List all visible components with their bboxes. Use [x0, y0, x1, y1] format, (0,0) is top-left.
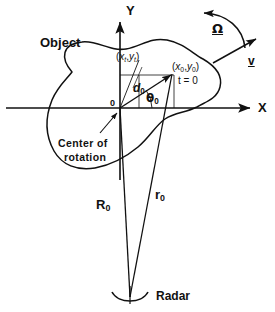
xt-subscript: t — [124, 56, 126, 63]
origin-label: 0 — [110, 99, 115, 108]
paren-close-0: ) — [196, 61, 199, 72]
object-label: Object — [40, 36, 80, 49]
R0-subscript: 0 — [105, 203, 110, 213]
d0-label: d0 — [133, 82, 145, 94]
d0-subscript: 0 — [140, 87, 145, 96]
x0-subscript: 0 — [180, 66, 184, 73]
paren-close: ) — [136, 51, 139, 62]
radar-label: Radar — [156, 290, 190, 302]
yt-subscript: t — [134, 56, 136, 63]
theta0-symbol: θ — [146, 91, 154, 105]
theta0-label: θ0 — [146, 92, 159, 104]
time-zero-label: t = 0 — [178, 76, 198, 86]
r0-subscript: 0 — [160, 193, 165, 203]
point-0-coordinate-label: (x0,y0) — [172, 62, 199, 72]
r0-label: r0 — [155, 188, 165, 201]
y0-subscript: 0 — [192, 66, 196, 73]
x-axis-label: X — [258, 101, 267, 114]
omega-rotation-arc — [204, 13, 245, 48]
point-t-coordinate-label: (xt,yt) — [116, 52, 139, 62]
velocity-label: v — [248, 55, 255, 67]
radar-geometry-figure: Y X 0 Object Ω v (xt,yt) (x0,y0) t = 0 d… — [0, 0, 275, 312]
R0-range-vector — [120, 108, 130, 297]
center-of-rotation-line2: rotation — [64, 152, 106, 163]
omega-rotation-label: Ω — [212, 22, 223, 35]
R0-symbol: R — [96, 197, 105, 212]
theta0-subscript: 0 — [154, 97, 159, 106]
y-axis-label: Y — [126, 4, 135, 17]
R0-label: R0 — [96, 198, 110, 211]
center-of-rotation-pointer — [100, 113, 117, 133]
center-of-rotation-line1: Center of — [58, 138, 108, 149]
